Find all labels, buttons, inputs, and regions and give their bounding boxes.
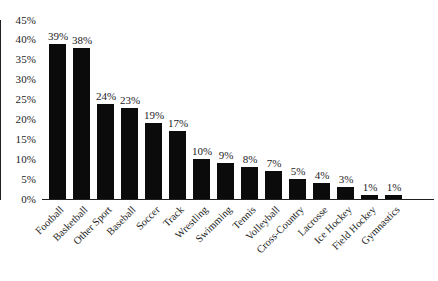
bar-slot: 3% [334, 20, 358, 199]
bar[interactable] [169, 131, 186, 199]
bar-slot: 8% [238, 20, 262, 199]
x-axis-line [42, 199, 434, 200]
bar-value-label: 10% [192, 146, 212, 157]
x-axis-category-labels: FootballBasketballOther SportBaseballSoc… [42, 201, 434, 281]
bar-value-label: 19% [144, 110, 164, 121]
bar-value-label: 1% [363, 182, 378, 193]
bar[interactable] [193, 159, 210, 199]
bar-slot: 19% [142, 20, 166, 199]
bar-chart: 0%5%10%15%20%25%30%35%40%45% 39%38%24%23… [0, 0, 438, 281]
y-axis-tick-label: 30% [0, 74, 36, 85]
bar-slot: 4% [310, 20, 334, 199]
bar-slot: 1% [382, 20, 406, 199]
bar[interactable] [73, 48, 90, 199]
bar-value-label: 17% [168, 118, 188, 129]
bar-value-label: 1% [387, 182, 402, 193]
bar[interactable] [385, 195, 402, 199]
bar-slot: 17% [166, 20, 190, 199]
bar-value-label: 23% [120, 95, 140, 106]
y-axis-tick-label: 25% [0, 94, 36, 105]
bar-slot: 10% [190, 20, 214, 199]
bar[interactable] [241, 167, 258, 199]
y-axis-tick-label: 35% [0, 54, 36, 65]
y-axis-tick-label: 40% [0, 34, 36, 45]
bar[interactable] [289, 179, 306, 199]
bar[interactable] [337, 187, 354, 199]
x-axis-label-slot: Gymnastics [382, 201, 406, 281]
y-axis-tick-label: 5% [0, 174, 36, 185]
bar-value-label: 9% [219, 150, 234, 161]
bar-slot: 1% [358, 20, 382, 199]
bar-slot: 5% [286, 20, 310, 199]
bar[interactable] [313, 183, 330, 199]
bar-value-label: 4% [315, 170, 330, 181]
y-axis-tick-label: 45% [0, 15, 36, 26]
bar[interactable] [217, 163, 234, 199]
bar-slot: 39% [46, 20, 70, 199]
y-axis-tick-label: 20% [0, 114, 36, 125]
bar-slot: 23% [118, 20, 142, 199]
bar-value-label: 5% [291, 166, 306, 177]
bar[interactable] [361, 195, 378, 199]
x-axis-label-slot: Baseball [118, 201, 142, 281]
bar[interactable] [49, 44, 66, 199]
bar-value-label: 39% [48, 31, 68, 42]
bar-value-label: 7% [267, 158, 282, 169]
bar[interactable] [265, 171, 282, 199]
y-axis-tick-labels: 0%5%10%15%20%25%30%35%40%45% [0, 0, 36, 281]
bar-value-label: 38% [72, 35, 92, 46]
x-axis-label-slot: Other Sport [94, 201, 118, 281]
plot-area: 39%38%24%23%19%17%10%9%8%7%5%4%3%1%1% [42, 20, 434, 199]
y-axis-tick-label: 10% [0, 154, 36, 165]
bar[interactable] [121, 108, 138, 199]
bar-slot: 24% [94, 20, 118, 199]
y-axis-line [0, 20, 1, 200]
bar-value-label: 3% [339, 174, 354, 185]
bar[interactable] [145, 123, 162, 199]
bar-value-label: 24% [96, 91, 116, 102]
bar-slot: 38% [70, 20, 94, 199]
x-axis-label-slot: Soccer [142, 201, 166, 281]
bar-slot: 9% [214, 20, 238, 199]
x-axis-label-slot: Swimming [214, 201, 238, 281]
x-axis-label-slot: Track [166, 201, 190, 281]
bar-slot: 7% [262, 20, 286, 199]
bar-value-label: 8% [243, 154, 258, 165]
y-axis-tick-label: 15% [0, 134, 36, 145]
bar[interactable] [97, 104, 114, 199]
y-axis-tick-label: 0% [0, 194, 36, 205]
x-axis-label-slot: Cross-Country [286, 201, 310, 281]
